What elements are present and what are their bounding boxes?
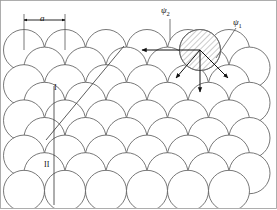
lattice-sphere — [4, 170, 45, 209]
lattice-parameter-label: a — [40, 14, 45, 23]
lattice-sphere — [86, 170, 127, 209]
lattice-sphere — [168, 170, 209, 209]
psi1-label: ψ1 — [233, 18, 242, 29]
lattice-sphere — [209, 170, 250, 209]
psi2-subscript: 2 — [167, 10, 170, 17]
psi2-label: ψ2 — [161, 6, 170, 17]
direction-label-II: II — [44, 161, 49, 169]
direction-label-I: I — [54, 84, 57, 92]
lattice-sphere — [45, 170, 86, 209]
atomic-packing-diagram — [0, 0, 277, 209]
psi1-subscript: 1 — [239, 22, 242, 29]
sphere-lattice — [4, 30, 271, 210]
figure-canvas: a I II ψ2 ψ1 — [0, 0, 277, 209]
lattice-sphere — [127, 170, 168, 209]
